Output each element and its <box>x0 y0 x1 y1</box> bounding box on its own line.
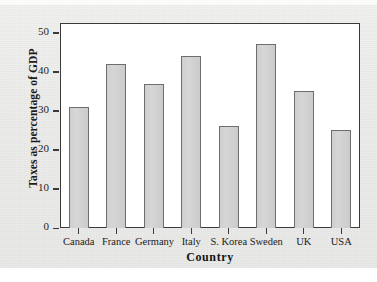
y-tick-mark <box>53 149 59 150</box>
y-tick-label: 20 <box>22 142 49 154</box>
y-tick-label: 50 <box>22 25 49 37</box>
y-tick-label: 10 <box>22 181 49 193</box>
x-tick-mark-canada <box>78 228 79 234</box>
x-tick-label-s-korea: S. Korea <box>210 236 248 247</box>
bar-chart-figure: Taxes as percentage of GDP 01020304050 C… <box>0 0 377 282</box>
x-tick-label-uk: UK <box>285 236 323 247</box>
bar-uk <box>294 91 314 228</box>
y-tick-mark <box>53 32 59 33</box>
x-tick-label-usa: USA <box>323 236 361 247</box>
bar-canada <box>69 107 89 228</box>
x-tick-label-canada: Canada <box>60 236 98 247</box>
x-axis-title: Country <box>60 250 360 265</box>
bar-usa <box>331 130 351 228</box>
bar-italy <box>181 56 201 228</box>
bar-sweden <box>256 44 276 228</box>
y-tick-label: 0 <box>22 220 49 232</box>
y-tick-label: 30 <box>22 103 49 115</box>
plot-area <box>60 23 360 228</box>
figure-bottom-margin <box>0 268 377 282</box>
x-tick-label-france: France <box>98 236 136 247</box>
x-tick-mark-uk <box>303 228 304 234</box>
y-tick-mark <box>53 110 59 111</box>
y-tick-mark <box>53 71 59 72</box>
y-tick-mark <box>53 228 59 229</box>
x-tick-label-germany: Germany <box>135 236 173 247</box>
x-tick-label-sweden: Sweden <box>248 236 286 247</box>
y-tick-mark <box>53 188 59 189</box>
x-tick-label-italy: Italy <box>173 236 211 247</box>
bar-france <box>106 64 126 228</box>
bar-germany <box>144 84 164 228</box>
x-tick-mark-germany <box>153 228 154 234</box>
x-tick-mark-sweden <box>266 228 267 234</box>
bar-s-korea <box>219 126 239 228</box>
x-tick-mark-france <box>116 228 117 234</box>
y-tick-label: 40 <box>22 64 49 76</box>
figure-top-margin <box>0 0 377 5</box>
x-tick-mark-usa <box>341 228 342 234</box>
x-tick-mark-s-korea <box>228 228 229 234</box>
x-tick-mark-italy <box>191 228 192 234</box>
